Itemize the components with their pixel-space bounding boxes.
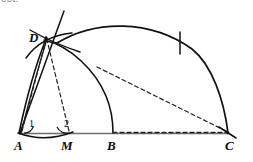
point-label-M: M: [61, 139, 73, 152]
angle-label-1: 1: [29, 119, 34, 129]
point-marker-D: [44, 36, 47, 39]
point-marker-A: [19, 132, 22, 135]
arc-A-to-B: [44, 40, 113, 133]
segment-intersection-to-C-dashed: [97, 67, 226, 131]
point-label-C: C: [225, 139, 234, 152]
angle-label-2: 2: [64, 119, 69, 129]
point-label-B: B: [107, 139, 116, 152]
construction-drawing: [0, 0, 253, 162]
arc-large-D-to-C: [57, 26, 228, 133]
geometry-figure: eet.: [0, 0, 253, 162]
point-label-D: D: [29, 31, 38, 44]
point-label-A: A: [14, 139, 23, 152]
point-marker-C: [227, 132, 230, 135]
